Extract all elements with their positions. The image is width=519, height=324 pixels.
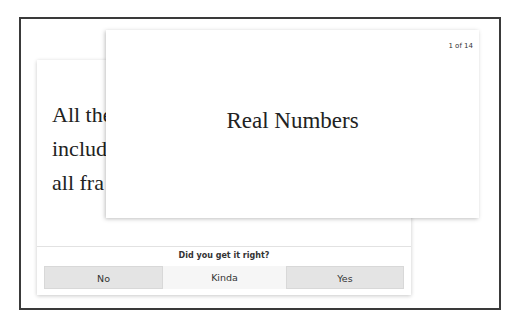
flashcard-front[interactable]: 1 of 14 Real Numbers — [106, 30, 479, 218]
kinda-button[interactable]: Kinda — [163, 266, 286, 289]
definition-text: All the includ all fra — [52, 98, 113, 200]
definition-line: includ — [52, 132, 113, 166]
definition-line: All the — [52, 98, 113, 132]
card-term: Real Numbers — [106, 108, 479, 134]
yes-button[interactable]: Yes — [286, 266, 404, 289]
feedback-question: Did you get it right? — [37, 251, 411, 260]
card-counter: 1 of 14 — [448, 42, 473, 50]
no-button[interactable]: No — [44, 266, 163, 289]
feedback-button-group: No Kinda Yes — [44, 266, 404, 289]
divider — [37, 246, 411, 247]
definition-line: all fra — [52, 166, 113, 200]
